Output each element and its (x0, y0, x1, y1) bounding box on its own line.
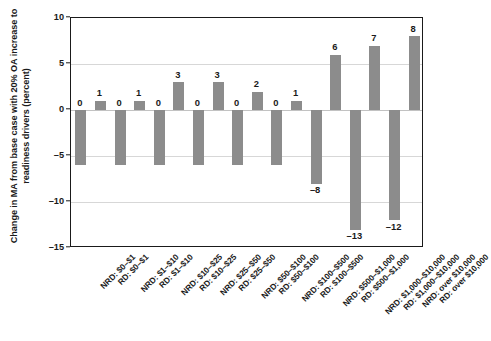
bar (154, 110, 165, 165)
bar (134, 101, 145, 110)
bar (291, 101, 302, 110)
bar (213, 82, 224, 110)
x-axis-label: NRD: $1–$10 (139, 252, 181, 294)
x-axis-label: NRD: $100–$500 (299, 252, 351, 304)
x-axis-label: NRD: $0–$1 (98, 252, 137, 291)
bar (232, 110, 243, 165)
y-axis-title: Change in MA from base case with 20% OA … (2, 2, 38, 250)
y-tick-label-0: 0 (18, 104, 64, 114)
x-axis-label: RD: $500–$1,000 (358, 252, 410, 304)
x-axis-label: RD: $1–$10 (156, 252, 194, 290)
bar (75, 110, 86, 165)
bar (252, 92, 263, 110)
y-tick-label-10: 10 (18, 12, 64, 22)
y-tick-label-neg15: –15 (18, 242, 64, 252)
x-axis-label: RD: $25–$50 (236, 252, 277, 293)
bar (389, 110, 400, 220)
y-tick-label-5: 5 (18, 58, 64, 68)
x-axis-label: RD: $10–$25 (197, 252, 238, 293)
bar (369, 46, 380, 110)
y-tick-label-neg10: –10 (18, 196, 64, 206)
bar (311, 110, 322, 184)
x-axis-label: RD: $100–$500 (317, 252, 365, 300)
bar (173, 82, 184, 110)
y-axis-title-text: Change in MA from base case with 20% OA … (8, 2, 33, 250)
x-axis-label: NRD: $50–$100 (259, 252, 308, 301)
bar (350, 110, 361, 230)
x-axis-label: RD: $0–$1 (116, 252, 151, 287)
bar (115, 110, 126, 165)
x-axis-label: NRD: $10–$25 (179, 252, 224, 297)
y-tick-label-neg5: –5 (18, 150, 64, 160)
bar (271, 110, 282, 165)
x-axis-label: NRD: $1,000–$10,000 (383, 252, 447, 316)
bar (193, 110, 204, 165)
x-axis-label: RD: over $10,000 (437, 252, 490, 305)
bar (409, 36, 420, 110)
bar (330, 55, 341, 110)
x-axis-label: NRD: $500–$1,000 (341, 252, 398, 309)
x-axis-label: RD: $50–$100 (277, 252, 321, 296)
x-axis-label: NRD: $25–$50 (218, 252, 263, 297)
plot-area (70, 17, 423, 247)
gridline (71, 202, 422, 203)
x-axis-label: NRD: over $10,000 (419, 252, 476, 309)
x-axis-label: RD: $1,000–$10,000 (401, 252, 461, 312)
bar (95, 101, 106, 110)
